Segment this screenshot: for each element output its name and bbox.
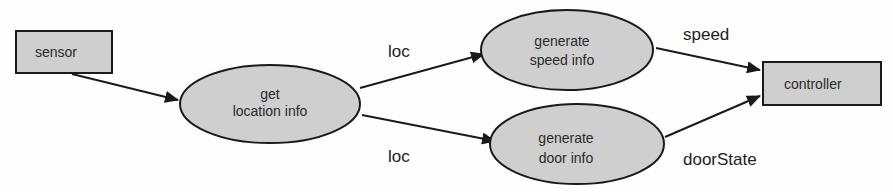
node-sensor: sensor [16,31,112,73]
edge-sensor-to-get-location [72,74,178,100]
edge-get-location-to-gen-speed: loc [360,42,484,88]
edge-label-loc-upper: loc [388,42,410,61]
node-controller: controller [763,62,881,105]
node-gen-speed-label-line2: speed info [530,52,595,68]
edge-gen-door-to-controller: doorState [665,96,760,169]
node-get-location-label-line1: get [260,86,280,102]
node-gen-door-label-line2: door info [539,150,594,166]
node-gen-speed-label-line1: generate [534,33,589,49]
node-sensor-label: sensor [35,44,77,60]
node-get-location-info: get location info [180,65,360,143]
edge-gen-speed-to-controller: speed [656,25,760,70]
node-gen-door-label-line1: generate [538,130,593,146]
diagram-svg: loc loc speed doorState sensor get locat… [0,0,893,192]
node-controller-label: controller [784,76,842,92]
data-flow-diagram: loc loc speed doorState sensor get locat… [0,0,893,192]
node-generate-door-info: generate door info [490,104,664,184]
node-get-location-label-line2: location info [233,103,308,119]
edge-label-doorstate: doorState [683,150,757,169]
edge-label-speed: speed [683,25,729,44]
node-generate-speed-info: generate speed info [481,10,653,90]
edge-label-loc-lower: loc [388,147,410,166]
edge-get-location-to-gen-door: loc [362,115,495,166]
